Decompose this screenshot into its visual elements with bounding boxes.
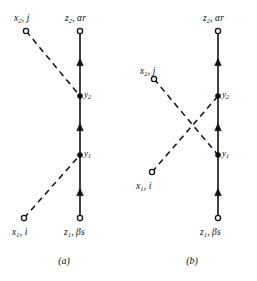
- arrowhead-up-1: [77, 58, 84, 66]
- panel-caption-a: (a): [0, 256, 128, 266]
- arrowhead-up-3: [77, 188, 84, 196]
- endpoint-node-z1-beta-s: [215, 215, 220, 220]
- dashed-line-x2j-to-y1: [154, 79, 218, 155]
- endpoint-label-x2-j: x2, j: [140, 67, 155, 77]
- feynman-style-diagram-figure: x2, j z2, αr x1, i z1, βs y2 y1 (a) z2, …: [0, 0, 257, 281]
- endpoint-node-z1-beta-s: [77, 215, 82, 220]
- vertex-dot-y2: [77, 93, 83, 99]
- dashed-line-x1i-to-y1: [24, 155, 80, 218]
- panel-b: z2, αr x2, j x1, i z1, βs y2 y1 (b): [128, 0, 256, 281]
- endpoint-label-z1-beta-s: z1, βs: [64, 228, 85, 238]
- endpoint-label-z1-beta-s: z1, βs: [200, 228, 221, 238]
- vertex-dot-y1: [77, 152, 83, 158]
- vertex-dot-y1: [215, 152, 221, 158]
- arrowhead-up-3: [215, 188, 222, 196]
- endpoint-label-z2-alpha-r: z2, αr: [203, 14, 224, 24]
- endpoint-node-x1-i: [21, 215, 26, 220]
- vertex-label-y2: y2: [222, 90, 229, 99]
- endpoint-node-x1-i: [149, 169, 154, 174]
- panel-a-graphics: [0, 0, 128, 281]
- vertex-label-y2: y2: [84, 90, 91, 99]
- vertex-label-y1: y1: [84, 149, 91, 158]
- arrowhead-up-1: [215, 58, 222, 66]
- endpoint-label-z2-alpha-r: z2, αr: [65, 14, 86, 24]
- dashed-line-x2j-to-y2: [26, 31, 80, 96]
- panel-a: x2, j z2, αr x1, i z1, βs y2 y1 (a): [0, 0, 128, 281]
- dashed-line-x1i-to-y2: [152, 96, 218, 172]
- panel-b-graphics: [128, 0, 256, 281]
- vertex-label-y1: y1: [222, 149, 229, 158]
- endpoint-label-x1-i: x1, i: [12, 228, 27, 238]
- endpoint-label-x2-j: x2, j: [14, 14, 29, 24]
- endpoint-node-z2-alpha-r: [77, 28, 82, 33]
- endpoint-node-z2-alpha-r: [215, 28, 220, 33]
- arrowhead-up-2: [77, 123, 84, 131]
- endpoint-node-x2-j: [23, 28, 28, 33]
- vertex-dot-y2: [215, 93, 221, 99]
- panel-caption-b: (b): [128, 256, 256, 266]
- arrowhead-up-2: [215, 123, 222, 131]
- endpoint-node-x2-j: [151, 76, 156, 81]
- endpoint-label-x1-i: x1, i: [136, 182, 151, 192]
